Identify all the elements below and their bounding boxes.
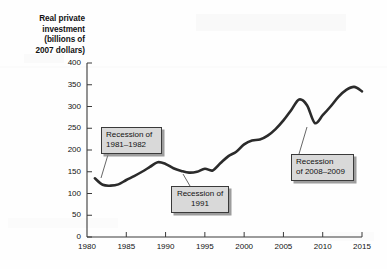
y-axis-tick-label-300: 300	[53, 103, 81, 111]
plot-area	[0, 0, 387, 269]
x-axis-tick-label-1990: 1990	[149, 243, 183, 251]
y-axis-tick-label-0: 0	[53, 233, 81, 241]
leader-line-2008	[299, 127, 307, 154]
x-axis-tick-label-1985: 1985	[109, 243, 143, 251]
leader-line-1991	[183, 174, 190, 186]
annotation-recession-1981: Recession of 1981–1982	[101, 127, 162, 154]
investment-line-chart-figure: Real private investment (billions of 200…	[0, 0, 387, 269]
x-axis-tick-label-2010: 2010	[306, 243, 340, 251]
y-axis-tick-label-250: 250	[53, 124, 81, 132]
annotation-recession-2008: Recession of 2008–2009	[291, 154, 354, 181]
y-axis-tick-label-200: 200	[53, 146, 81, 154]
x-axis-ticks	[126, 232, 362, 237]
y-axis-tick-label-150: 150	[53, 168, 81, 176]
y-axis-ticks	[87, 63, 92, 237]
x-axis-tick-label-2015: 2015	[345, 243, 379, 251]
annotation-recession-1991: Recession of 1991	[171, 186, 229, 213]
x-axis-tick-label-2005: 2005	[266, 243, 300, 251]
x-axis-tick-label-2000: 2000	[227, 243, 261, 251]
y-axis-tick-label-350: 350	[53, 81, 81, 89]
y-axis-tick-label-100: 100	[53, 190, 81, 198]
x-axis-tick-label-1980: 1980	[70, 243, 104, 251]
x-axis-tick-label-1995: 1995	[188, 243, 222, 251]
y-axis-tick-label-400: 400	[53, 59, 81, 67]
y-axis-tick-label-50: 50	[53, 211, 81, 219]
